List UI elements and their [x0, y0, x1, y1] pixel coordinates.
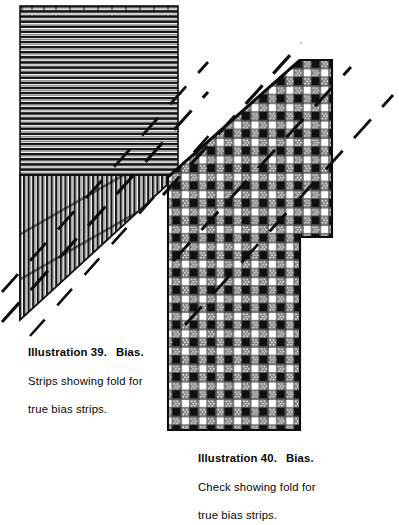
striped-fabric-folded-triangle: [10, 160, 178, 330]
caption-39-line-1: Illustration 39.Bias.: [28, 345, 204, 359]
caption-40-line-1: Illustration 40.Bias.: [198, 451, 388, 465]
caption-40-line-2: Check showing fold for: [198, 480, 388, 494]
caption-40-line-3: true bias strips.: [198, 508, 388, 522]
caption-39-subject: Bias.: [116, 346, 144, 358]
caption-40-label: Illustration 40.: [198, 452, 277, 464]
caption-39-line-3: true bias strips.: [28, 402, 204, 416]
caption-illustration-39: Illustration 39.Bias. Strips showing fol…: [28, 331, 204, 430]
caption-39-label: Illustration 39.: [28, 346, 107, 358]
caption-40-subject: Bias.: [286, 452, 314, 464]
caption-illustration-40: Illustration 40.Bias. Check showing fold…: [198, 437, 388, 525]
caption-39-line-2: Strips showing fold for: [28, 374, 204, 388]
